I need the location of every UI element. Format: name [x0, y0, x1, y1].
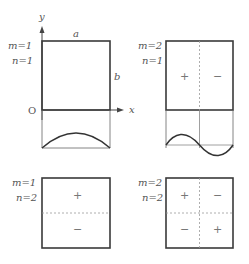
sign-minus-bottom-left: −: [180, 223, 189, 236]
x-axis-arrow-icon: [117, 108, 124, 113]
origin-label: O: [28, 105, 36, 116]
panel-m2-n2: m=2 n=2 + − − +: [138, 177, 233, 248]
m-label: m=1: [8, 40, 32, 51]
sign-minus: −: [73, 223, 82, 236]
panel-m2-n1: m=2 n=1 + −: [138, 40, 233, 156]
y-axis-arrow-icon: [40, 26, 45, 33]
width-label: a: [73, 28, 79, 39]
sign-minus: −: [213, 70, 222, 83]
n-label: n=2: [142, 192, 163, 203]
n-label: n=1: [142, 55, 163, 66]
n-label: n=2: [16, 192, 37, 203]
y-axis-label: y: [38, 11, 45, 22]
sign-plus: +: [73, 189, 82, 202]
x-axis-label: x: [129, 104, 135, 115]
sign-plus-top-left: +: [180, 189, 189, 202]
m-label: m=1: [12, 177, 36, 188]
m-label: m=2: [138, 177, 162, 188]
half-sine-profile: [42, 133, 110, 148]
plate-rect: [166, 41, 233, 110]
m-label: m=2: [138, 40, 162, 51]
sign-plus: +: [180, 70, 189, 83]
n-label: n=1: [12, 55, 33, 66]
plate-rect: [42, 41, 110, 110]
panel-m1-n2: m=1 n=2 + −: [12, 177, 110, 248]
sign-minus-top-right: −: [213, 189, 222, 202]
sign-plus-bottom-right: +: [213, 223, 222, 236]
mode-shape-diagram: y x O a b m=1 n=1 m=2 n=1 + − m=1: [0, 0, 249, 264]
panel-m1-n1: y x O a b m=1 n=1: [8, 11, 135, 148]
height-label: b: [114, 71, 120, 82]
